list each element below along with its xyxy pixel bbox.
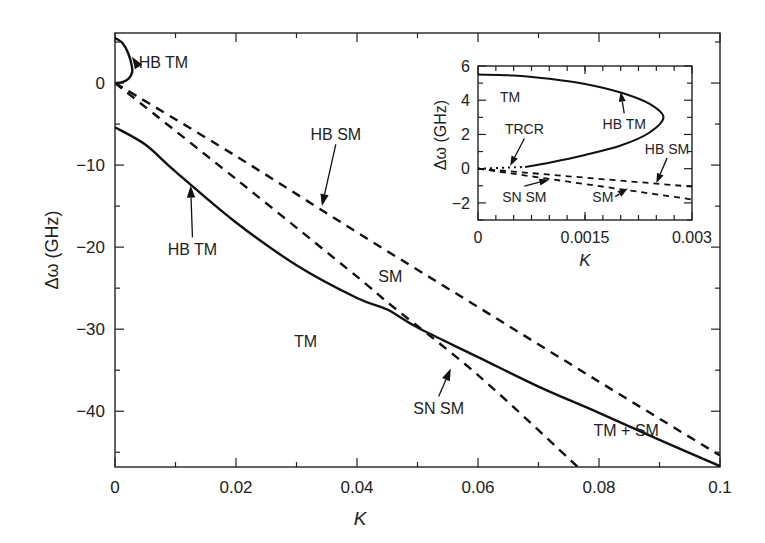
- bifurcation-chart: 00.020.040.060.080.10−10−20−30−40HB TMHB…: [0, 0, 765, 543]
- inset-x-tick-label: 0.003: [672, 229, 712, 246]
- inset-y-tick-label: 6: [461, 58, 470, 75]
- main-annotation: HB TM: [139, 54, 188, 71]
- main-x-tick-label: 0.02: [219, 478, 252, 497]
- inset-y-tick-label: 0: [461, 160, 470, 177]
- inset-y-tick-label: −2: [452, 195, 470, 212]
- main-arrowhead-icon: [320, 193, 328, 206]
- inset-x-tick-label: 0.0015: [561, 229, 610, 246]
- inset-y-tick-label: 2: [461, 126, 470, 143]
- inset-y-axis-label: Δω (GHz): [432, 100, 449, 170]
- inset-annotation: TRCR: [505, 121, 544, 137]
- main-x-tick-label: 0.1: [708, 478, 732, 497]
- main-y-tick-label: 0: [96, 74, 105, 93]
- chart-canvas: 00.020.040.060.080.10−10−20−30−40HB TMHB…: [0, 0, 765, 543]
- inset-plot: 00.00150.0036420−2TMTRCRHB TMHB SMSN SMS…: [430, 50, 712, 275]
- main-y-tick-label: −40: [76, 402, 105, 421]
- main-y-tick-label: −10: [76, 156, 105, 175]
- inset-annotation: HB TM: [603, 116, 646, 132]
- main-annotation: TM + SM: [594, 422, 659, 439]
- main-annotation: SM: [378, 268, 402, 285]
- inset-annotation: SN SM: [502, 189, 546, 205]
- inset-annotation: TM: [500, 89, 520, 105]
- main-arrowhead-icon: [442, 369, 451, 382]
- main-y-tick-label: −30: [76, 320, 105, 339]
- main-x-tick-label: 0.08: [582, 478, 615, 497]
- inset-annotation: HB SM: [645, 141, 689, 157]
- inset-x-axis-label: K: [579, 251, 591, 270]
- main-arrow: [439, 380, 446, 397]
- main-annotation: HB SM: [310, 126, 361, 143]
- main-arrow: [191, 198, 192, 238]
- inset-x-tick-label: 0: [474, 229, 483, 246]
- inset-annotation: SM: [592, 189, 613, 205]
- inset-y-tick-label: 4: [461, 92, 470, 109]
- main-y-tick-label: −20: [76, 238, 105, 257]
- main-annotation: TM: [294, 333, 317, 350]
- y-axis-label: Δω (GHz): [42, 210, 62, 289]
- main-arrow: [325, 144, 336, 194]
- main-series-hb-tm-upper-loop: [115, 38, 132, 83]
- main-x-tick-label: 0.04: [340, 478, 373, 497]
- main-x-tick-label: 0: [110, 478, 119, 497]
- main-x-tick-label: 0.06: [461, 478, 494, 497]
- x-axis-label: K: [354, 508, 368, 529]
- main-annotation: HB TM: [168, 241, 217, 258]
- main-annotation: SN SM: [413, 400, 464, 417]
